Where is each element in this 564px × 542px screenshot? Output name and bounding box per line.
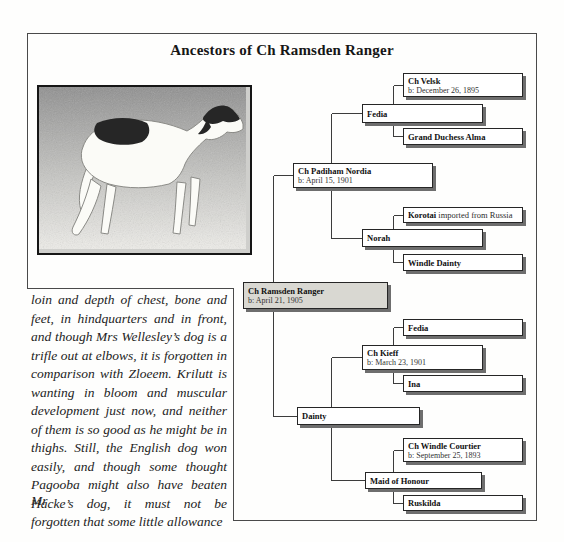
body-text-line: forgotten that some little allowance bbox=[31, 514, 227, 533]
dog-name: Maid of Honour bbox=[370, 476, 477, 486]
dog-name: Ruskilda bbox=[408, 498, 518, 508]
dog-name: Dainty bbox=[302, 411, 415, 421]
pedigree-box-grand-duchess-alma: Grand Duchess Alma bbox=[403, 128, 523, 145]
body-text-line: loin and depth of chest, bone and bbox=[31, 292, 227, 311]
body-text-line: of them is so good as he might be in bbox=[31, 422, 227, 441]
pedigree-box-windle-dainty: Windle Dainty bbox=[403, 254, 523, 271]
dog-name: Fedia bbox=[367, 109, 478, 119]
dog-name: Ch Windle Courtier bbox=[408, 441, 518, 451]
pedigree-box-ch-velsk: Ch Velsk b: December 26, 1895 bbox=[403, 73, 523, 97]
dog-name: Ch Ramsden Ranger bbox=[248, 286, 383, 296]
page-title: Ancestors of Ch Ramsden Ranger bbox=[27, 42, 537, 59]
dog-photo-frame bbox=[37, 85, 252, 255]
body-text-line: and though Mrs Wellesley’s dog is a bbox=[31, 329, 227, 348]
pedigree-box-norah: Norah bbox=[362, 229, 483, 247]
dog-birth-date: b: September 25, 1893 bbox=[408, 451, 518, 460]
dog-birth-date: b: April 21, 1905 bbox=[248, 296, 383, 305]
body-text-line: trifle out at elbows, it is forgotten in bbox=[31, 348, 227, 367]
dog-name: Ch Velsk bbox=[408, 76, 518, 86]
pedigree-box-fedia-2: Fedia bbox=[403, 319, 523, 336]
body-text-line: feet, in hindquarters and in front, bbox=[31, 311, 227, 330]
body-text-line: thighs. Still, the English dog won bbox=[31, 440, 227, 459]
dog-name: Fedia bbox=[408, 323, 518, 333]
body-text-block: loin and depth of chest, bone and feet, … bbox=[31, 292, 227, 533]
dog-name-note: imported from Russia bbox=[436, 210, 512, 220]
pedigree-box-ch-padiham-nordia: Ch Padiham Nordia b: April 15, 1901 bbox=[293, 163, 433, 188]
pedigree-box-ch-windle-courtier: Ch Windle Courtier b: September 25, 1893 bbox=[403, 438, 523, 462]
body-text-line: Pagooba might also have beaten Mr bbox=[31, 477, 227, 496]
pedigree-box-fedia: Fedia bbox=[362, 104, 483, 123]
pedigree-box-korotai: Korotai imported from Russia bbox=[403, 207, 523, 223]
dog-name: Ch Kieff bbox=[367, 348, 478, 358]
borzoi-dog-illustration bbox=[39, 87, 246, 249]
pedigree-box-ch-kieff: Ch Kieff b: March 23, 1901 bbox=[362, 345, 483, 370]
dog-name: Korotai imported from Russia bbox=[408, 210, 518, 220]
body-text-line: comparison with Zloeem. Krilutt is bbox=[31, 366, 227, 385]
pedigree-box-ruskilda: Ruskilda bbox=[403, 495, 523, 511]
body-text-line: Hacke’s dog, it must not be bbox=[31, 496, 227, 515]
dog-name: Windle Dainty bbox=[408, 258, 518, 268]
pedigree-box-maid-of-honour: Maid of Honour bbox=[365, 472, 482, 489]
dog-name: Grand Duchess Alma bbox=[408, 132, 518, 142]
dog-name: Norah bbox=[367, 233, 478, 243]
dog-name: Ina bbox=[408, 379, 518, 389]
dog-birth-date: b: April 15, 1901 bbox=[298, 176, 428, 185]
pedigree-box-ch-ramsden-ranger-root: Ch Ramsden Ranger b: April 21, 1905 bbox=[243, 282, 388, 309]
pedigree-box-dainty: Dainty bbox=[297, 407, 420, 425]
body-text-line: easily, and though some thought bbox=[31, 459, 227, 478]
dog-name: Ch Padiham Nordia bbox=[298, 166, 428, 176]
book-page: Ancestors of Ch Ramsden Ranger bbox=[0, 0, 564, 542]
body-text-line: development just now, and neither bbox=[31, 403, 227, 422]
body-text-line: wanting in bloom and muscular bbox=[31, 385, 227, 404]
pedigree-box-ina: Ina bbox=[403, 375, 523, 392]
dog-birth-date: b: December 26, 1895 bbox=[408, 86, 518, 95]
dog-birth-date: b: March 23, 1901 bbox=[367, 358, 478, 367]
